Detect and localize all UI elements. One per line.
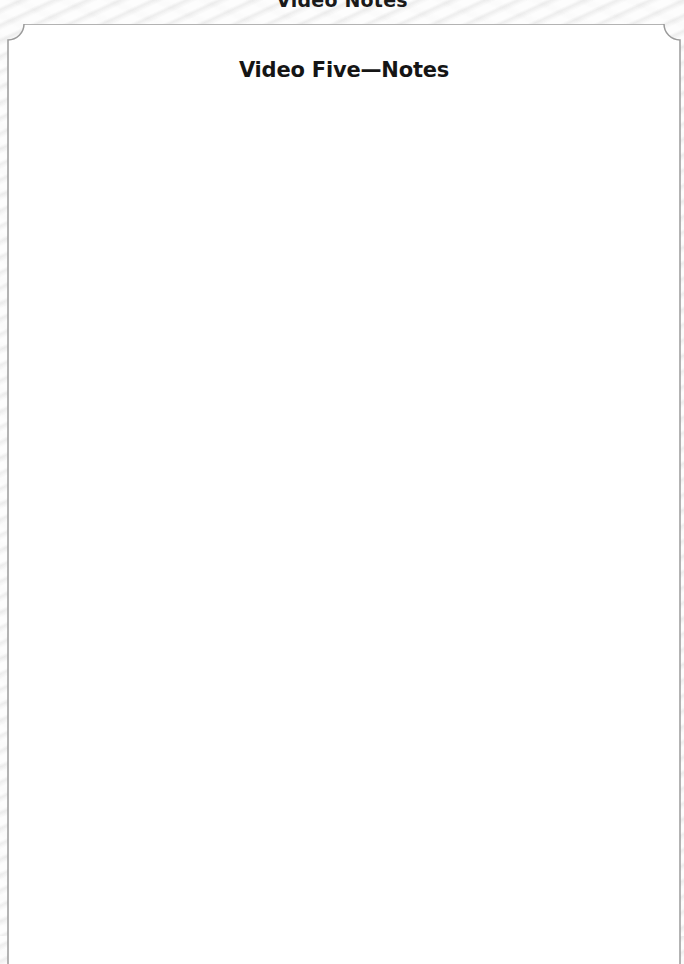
- notes-card: Video Five—Notes: [6, 24, 682, 964]
- header-title: Video Notes: [0, 0, 684, 11]
- notes-writing-area: [26, 114, 662, 944]
- card-title: Video Five—Notes: [6, 58, 682, 82]
- page-header: Video Notes: [0, 0, 684, 26]
